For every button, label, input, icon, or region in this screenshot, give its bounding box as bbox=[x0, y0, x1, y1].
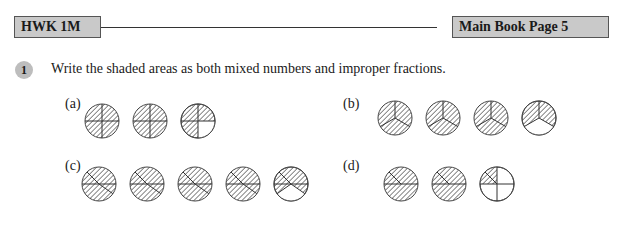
thirds-circle-full bbox=[425, 100, 461, 136]
part-d-circles bbox=[383, 166, 527, 202]
quarters-circle-full bbox=[84, 103, 120, 139]
sector-circle-partial bbox=[273, 166, 309, 202]
sector-circle-full bbox=[383, 166, 419, 202]
sector-circle-full bbox=[431, 166, 467, 202]
thirds-circle-full bbox=[473, 100, 509, 136]
thirds-circle-full bbox=[377, 100, 413, 136]
header-rule bbox=[100, 27, 437, 28]
homework-tag: HWK 1M bbox=[14, 16, 101, 38]
main-book-page-tag: Main Book Page 5 bbox=[452, 16, 609, 38]
quarters-circle-full bbox=[132, 103, 168, 139]
question-text: Write the shaded areas as both mixed num… bbox=[51, 60, 446, 78]
sector-circle-full bbox=[225, 166, 261, 202]
sector-circle-full bbox=[81, 166, 117, 202]
question-number: 1 bbox=[15, 61, 33, 79]
part-b-circles bbox=[377, 100, 569, 136]
part-a-label: (a) bbox=[65, 96, 81, 112]
part-b-label: (b) bbox=[343, 96, 359, 112]
sector-circle-full bbox=[129, 166, 165, 202]
part-c-circles bbox=[81, 166, 321, 202]
quarters-circle-partial bbox=[479, 166, 515, 202]
part-c-label: (c) bbox=[65, 158, 81, 174]
part-a-circles bbox=[84, 103, 228, 139]
thirds-circle-partial bbox=[521, 100, 557, 136]
part-d-label: (d) bbox=[343, 158, 359, 174]
quarters-circle-partial bbox=[180, 103, 216, 139]
sector-circle-full bbox=[177, 166, 213, 202]
